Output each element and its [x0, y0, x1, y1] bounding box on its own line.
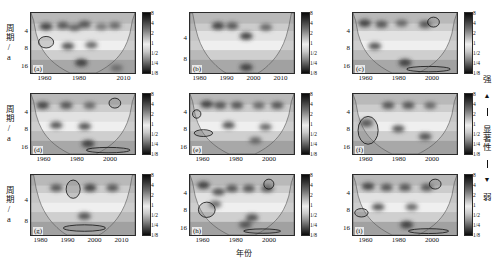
y-tick-label: 4 — [347, 190, 351, 197]
colorbar-tick-label: 1/4 — [151, 141, 158, 147]
panel-tag: (d) — [33, 146, 43, 154]
x-tick-label: 1990 — [219, 74, 233, 82]
panel-tag: (e) — [192, 146, 202, 154]
x-tick-label: 1980 — [229, 155, 243, 163]
panel-c: 4816(c)19601980200084211/21/41/8 — [326, 4, 492, 85]
x-tick-label: 1960 — [359, 155, 373, 163]
y-tick-group: 4816 — [335, 93, 351, 153]
y-tick-group: 48 — [13, 174, 29, 234]
colorbar-tick-label: 1/4 — [310, 60, 317, 66]
x-tick-group: 196019802000 — [352, 236, 456, 246]
x-tick-label: 2010 — [115, 236, 129, 244]
colorbar-tick-label: 2 — [151, 30, 154, 36]
colorbar-tick-group: 84211/21/41/8 — [310, 8, 326, 76]
colorbar-tick-label: 1/8 — [151, 232, 158, 238]
y-tick-label: 4 — [184, 35, 188, 42]
panel-tag: (f) — [355, 146, 364, 154]
heatmap-plot: (a) — [30, 12, 136, 74]
colorbar-tick-label: 1/8 — [310, 70, 317, 76]
colorbar-tick-label: 1/4 — [151, 222, 158, 228]
y-tick-group: 4816 — [172, 174, 188, 234]
colorbar-gradient — [143, 175, 150, 235]
y-tick-group: 4816 — [172, 93, 188, 153]
colorbar-gradient — [465, 13, 472, 73]
colorbar-tick-label: 2 — [151, 192, 154, 198]
x-tick-label: 1960 — [38, 74, 52, 82]
legend-strong-label: 强 — [483, 74, 492, 84]
colorbar-tick-label: 4 — [151, 182, 154, 188]
x-tick-label: 1960 — [196, 155, 210, 163]
colorbar-gradient — [302, 13, 309, 73]
colorbar-tick-label: 1/2 — [310, 131, 317, 137]
x-tick-label: 2000 — [246, 74, 260, 82]
panel-grid: 周期/a4816(a)19601980201084211/21/41/848(b… — [0, 4, 499, 248]
x-tick-label: 1990 — [60, 236, 74, 244]
colorbar-gradient — [302, 175, 309, 235]
y-tick-label: 4 — [25, 197, 29, 204]
x-tick-group: 196019802010 — [30, 74, 134, 84]
y-tick-label: 4 — [347, 28, 351, 35]
colorbar-tick-label: 4 — [473, 20, 476, 26]
x-tick-label: 2000 — [262, 236, 276, 244]
y-tick-group: 4816 — [335, 12, 351, 72]
panel-b: 48(b)198019902000201084211/21/41/8 — [163, 4, 325, 85]
colorbar — [142, 174, 151, 236]
heatmap-plot: (c) — [352, 12, 458, 74]
heatmap-plot: (e) — [189, 93, 295, 155]
panel-row: 周期/a4816(d)19601980200084211/21/41/84816… — [0, 85, 499, 166]
y-tick-label: 4 — [25, 28, 29, 35]
colorbar-tick-group: 84211/21/41/8 — [310, 170, 326, 238]
legend-axis-label: 显 著 性 — [483, 125, 492, 152]
y-tick-label: 8 — [347, 45, 351, 52]
heatmap-plot: (i) — [352, 174, 458, 236]
panel-a: 周期/a4816(a)19601980201084211/21/41/8 — [0, 4, 162, 85]
y-tick-group: 4816 — [13, 12, 29, 72]
y-tick-label: 16 — [180, 225, 187, 232]
colorbar — [464, 93, 473, 155]
y-tick-label: 16 — [21, 144, 28, 151]
heatmap-plot: (b) — [189, 12, 295, 74]
colorbar-tick-label: 8 — [310, 172, 313, 178]
colorbar-gradient — [465, 94, 472, 154]
x-tick-group: 196019802000 — [189, 236, 293, 246]
panel-d: 周期/a4816(d)19601980200084211/21/41/8 — [0, 85, 162, 166]
colorbar-tick-label: 1 — [151, 202, 154, 208]
colorbar-tick-label: 8 — [473, 91, 476, 97]
colorbar-tick-label: 1/4 — [473, 222, 480, 228]
x-tick-label: 1980 — [192, 74, 206, 82]
colorbar — [301, 174, 310, 236]
x-tick-label: 1980 — [33, 236, 47, 244]
colorbar — [464, 174, 473, 236]
y-tick-label: 8 — [184, 56, 188, 63]
y-tick-label: 16 — [21, 63, 28, 70]
colorbar-tick-label: 1 — [310, 40, 313, 46]
x-tick-label: 1960 — [359, 236, 373, 244]
colorbar-tick-label: 8 — [151, 91, 154, 97]
colorbar-tick-group: 84211/21/41/8 — [310, 89, 326, 157]
y-tick-label: 4 — [25, 109, 29, 116]
panel-tag: (h) — [192, 227, 202, 235]
colorbar-tick-label: 1/4 — [310, 222, 317, 228]
legend-down-arrow: ▼ — [484, 177, 491, 184]
panel-i: 4816(i)19601980200084211/21/41/8 — [326, 166, 492, 247]
colorbar-tick-label: 1/4 — [310, 141, 317, 147]
y-tick-label: 4 — [347, 109, 351, 116]
x-tick-label: 2000 — [425, 236, 439, 244]
colorbar-tick-label: 1/2 — [473, 212, 480, 218]
colorbar-tick-label: 4 — [151, 20, 154, 26]
colorbar — [301, 93, 310, 155]
x-tick-label: 1980 — [392, 74, 406, 82]
x-tick-label: 2000 — [103, 155, 117, 163]
y-tick-label: 8 — [184, 207, 188, 214]
x-tick-group: 196019802000 — [352, 74, 456, 84]
colorbar-tick-label: 1/8 — [151, 151, 158, 157]
x-tick-label: 2000 — [262, 155, 276, 163]
x-tick-label: 2010 — [274, 74, 288, 82]
x-tick-label: 1980 — [229, 236, 243, 244]
colorbar-gradient — [302, 94, 309, 154]
colorbar-tick-label: 8 — [310, 91, 313, 97]
colorbar-tick-label: 1/8 — [310, 151, 317, 157]
colorbar-tick-label: 1/8 — [473, 232, 480, 238]
heatmap-plot: (g) — [30, 174, 136, 236]
colorbar-tick-label: 1 — [310, 121, 313, 127]
